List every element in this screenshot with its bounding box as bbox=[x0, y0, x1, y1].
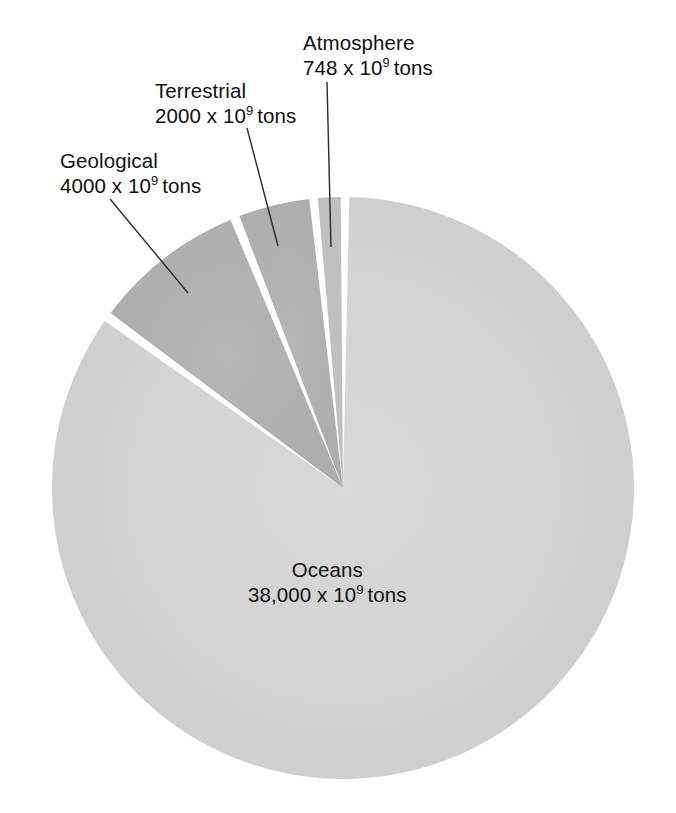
slice-label-terrestrial-name: Terrestrial bbox=[155, 78, 296, 103]
pie-chart-figure: Geological 4000 x 109tons Terrestrial 20… bbox=[0, 0, 676, 813]
slice-label-oceans-value: 38,000 x 109tons bbox=[248, 582, 407, 607]
slice-label-atmosphere-name: Atmosphere bbox=[303, 30, 433, 55]
slice-label-geological-value: 4000 x 109tons bbox=[60, 173, 201, 198]
pie-chart-svg bbox=[0, 0, 676, 813]
slice-label-terrestrial: Terrestrial 2000 x 109tons bbox=[155, 78, 296, 128]
slice-label-atmosphere: Atmosphere 748 x 109tons bbox=[303, 30, 433, 80]
slice-label-terrestrial-value: 2000 x 109tons bbox=[155, 103, 296, 128]
slice-label-oceans-name: Oceans bbox=[248, 557, 407, 582]
slice-label-oceans: Oceans 38,000 x 109tons bbox=[248, 557, 407, 607]
slice-label-geological-name: Geological bbox=[60, 148, 201, 173]
slice-label-geological: Geological 4000 x 109tons bbox=[60, 148, 201, 198]
slice-label-atmosphere-value: 748 x 109tons bbox=[303, 55, 433, 80]
